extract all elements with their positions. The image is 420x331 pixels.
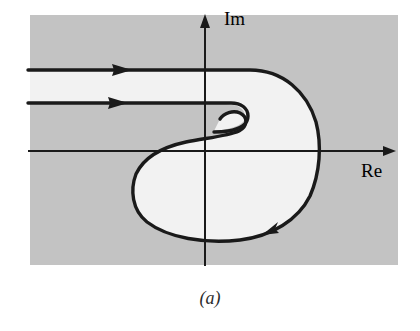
- imaginary-axis-label: Im: [224, 8, 245, 30]
- real-axis-label: Re: [361, 160, 382, 182]
- complex-plane-figure: [0, 0, 420, 331]
- figure-container: Im Re (a): [0, 0, 420, 331]
- figure-caption: (a): [0, 288, 420, 309]
